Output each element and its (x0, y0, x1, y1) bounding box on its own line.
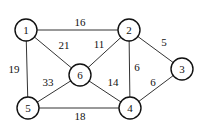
edge-weight-2-4: 6 (134, 61, 140, 73)
node-label: 6 (77, 69, 83, 81)
node-label: 2 (126, 24, 132, 36)
nodes-group: 123456 (15, 19, 193, 119)
edge-weight-2-3: 5 (161, 36, 167, 48)
node-6: 6 (69, 64, 91, 86)
edge-2-4 (129, 30, 130, 108)
edge-weight-6-5: 33 (43, 76, 55, 88)
edge-weight-3-4: 6 (150, 76, 156, 88)
edge-weight-5-4: 18 (75, 110, 87, 122)
edge-weight-1-5: 19 (9, 63, 21, 75)
edge-weight-2-6: 11 (94, 38, 105, 50)
node-label: 1 (23, 24, 29, 36)
node-2: 2 (118, 19, 140, 41)
node-label: 4 (127, 102, 133, 114)
edge-1-5 (26, 30, 28, 108)
edge-weight-1-6: 21 (59, 39, 70, 51)
weighted-graph: 16211911563314618 123456 (0, 0, 206, 137)
node-label: 3 (179, 63, 185, 75)
edge-weight-1-2: 16 (75, 16, 87, 28)
node-1: 1 (15, 19, 37, 41)
node-5: 5 (17, 97, 39, 119)
edge-weight-6-4: 14 (108, 76, 120, 88)
node-3: 3 (171, 58, 193, 80)
node-4: 4 (119, 97, 141, 119)
node-label: 5 (25, 102, 31, 114)
